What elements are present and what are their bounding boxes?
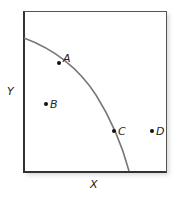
point-d-dot	[150, 129, 154, 133]
x-axis-label: X	[90, 179, 98, 190]
point-b-dot	[44, 102, 48, 106]
point-d-label: D	[156, 126, 164, 137]
frontier-curve	[24, 38, 129, 171]
ppf-diagram: A B C D Y X	[0, 0, 180, 201]
point-a-label: A	[63, 53, 71, 64]
point-b-label: B	[50, 99, 58, 110]
plot-area	[0, 0, 180, 201]
point-a-dot	[57, 61, 61, 65]
point-c-dot	[112, 129, 116, 133]
point-c-label: C	[118, 126, 126, 137]
y-axis-label: Y	[7, 86, 14, 97]
